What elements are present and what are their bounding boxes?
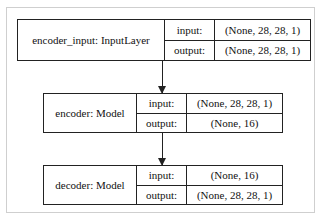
output-label: output:	[165, 41, 214, 61]
node-name: encoder_input: InputLayer	[18, 20, 165, 60]
node-name: encoder: Model	[44, 94, 137, 132]
output-shape: (None, 16)	[187, 114, 282, 133]
input-label: input:	[137, 166, 186, 186]
node-encoder: encoder: Model input: output: (None, 28,…	[43, 93, 283, 133]
output-shape: (None, 28, 28, 1)	[215, 41, 310, 61]
node-encoder-input: encoder_input: InputLayer input: output:…	[17, 19, 311, 61]
output-label: output:	[137, 114, 186, 133]
input-shape: (None, 28, 28, 1)	[187, 94, 282, 114]
node-name: decoder: Model	[44, 166, 137, 204]
input-label: input:	[137, 94, 186, 114]
output-shape: (None, 28, 28, 1)	[187, 186, 282, 205]
input-shape: (None, 28, 28, 1)	[215, 20, 310, 41]
node-decoder: decoder: Model input: output: (None, 16)…	[43, 165, 283, 205]
output-label: output:	[137, 186, 186, 205]
input-shape: (None, 16)	[187, 166, 282, 186]
input-label: input:	[165, 20, 214, 41]
